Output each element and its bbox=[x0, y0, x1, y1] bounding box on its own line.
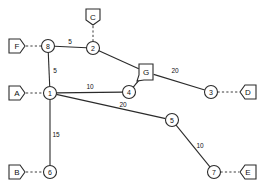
terminal-g[interactable]: G bbox=[137, 64, 153, 81]
edge-tG-n3 bbox=[154, 74, 205, 90]
edge-n8-n1 bbox=[48, 52, 49, 86]
stubs-layer bbox=[26, 26, 239, 172]
edge-weight-e8-2: 5 bbox=[68, 38, 72, 45]
terminal-label-d: D bbox=[245, 88, 251, 97]
node-label-1: 1 bbox=[48, 90, 52, 97]
node-5[interactable]: 5 bbox=[166, 114, 179, 127]
node-label-2: 2 bbox=[91, 45, 95, 52]
terminal-label-c: C bbox=[90, 13, 96, 22]
node-1[interactable]: 1 bbox=[44, 87, 57, 100]
node-label-5: 5 bbox=[170, 117, 174, 124]
terminal-c[interactable]: C bbox=[86, 9, 100, 25]
edge-n2-tG bbox=[99, 51, 139, 69]
edges-layer bbox=[48, 46, 210, 167]
node-4[interactable]: 4 bbox=[123, 86, 136, 99]
node-6[interactable]: 6 bbox=[44, 166, 57, 179]
edge-weight-e1-4: 10 bbox=[86, 83, 94, 90]
node-label-4: 4 bbox=[127, 89, 131, 96]
nodes-layer: 12345678 bbox=[42, 40, 221, 179]
terminal-d[interactable]: D bbox=[240, 85, 256, 99]
edge-weight-e8-1: 5 bbox=[53, 67, 57, 74]
edge-weight-e5-7: 10 bbox=[196, 142, 204, 149]
terminal-b[interactable]: B bbox=[9, 165, 25, 179]
node-7[interactable]: 7 bbox=[208, 166, 221, 179]
edge-weight-e1-5: 20 bbox=[119, 101, 127, 108]
edge-weight-eG-3: 20 bbox=[171, 67, 179, 74]
terminal-label-f: F bbox=[15, 42, 20, 51]
edge-n1-n4 bbox=[56, 92, 122, 93]
edge-n5-n7 bbox=[176, 125, 210, 167]
node-8[interactable]: 8 bbox=[42, 40, 55, 53]
node-label-7: 7 bbox=[212, 169, 216, 176]
network-diagram-canvas: 552010201510 ABCDEFG 12345678 bbox=[0, 0, 267, 193]
node-label-3: 3 bbox=[209, 89, 213, 96]
network-graph-svg: 552010201510 ABCDEFG 12345678 bbox=[0, 0, 267, 193]
terminal-label-g: G bbox=[143, 68, 149, 77]
terminal-e[interactable]: E bbox=[240, 165, 256, 179]
terminal-label-a: A bbox=[14, 89, 20, 98]
node-3[interactable]: 3 bbox=[205, 86, 218, 99]
edge-n1-n5 bbox=[56, 94, 165, 118]
node-label-8: 8 bbox=[46, 43, 50, 50]
edge-weight-e1-6: 15 bbox=[52, 131, 60, 138]
terminal-label-b: B bbox=[14, 168, 19, 177]
node-label-6: 6 bbox=[48, 169, 52, 176]
node-2[interactable]: 2 bbox=[87, 42, 100, 55]
edge-n8-n2 bbox=[54, 46, 86, 47]
terminal-f[interactable]: F bbox=[9, 39, 25, 53]
terminal-a[interactable]: A bbox=[9, 86, 25, 100]
terminal-label-e: E bbox=[245, 168, 250, 177]
